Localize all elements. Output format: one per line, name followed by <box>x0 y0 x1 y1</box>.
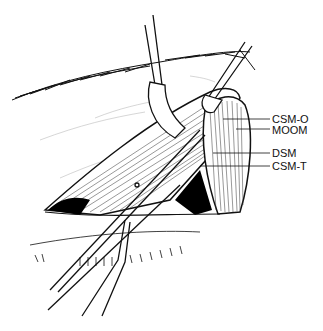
label-moom: MOOM <box>272 124 307 136</box>
label-dsm: DSM <box>272 147 296 159</box>
lower-lid <box>30 231 200 245</box>
eyelashes <box>35 246 182 266</box>
eyelid-surgery-illustration: CSM-O MOOM DSM CSM-T <box>0 0 323 331</box>
label-csm-t: CSM-T <box>272 160 307 172</box>
